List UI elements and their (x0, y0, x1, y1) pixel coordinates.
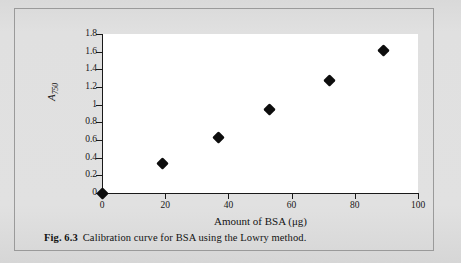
y-axis-title-base: A (45, 94, 57, 101)
y-tick-label: 0.8 (57, 117, 97, 127)
figure-number: Fig. 6.3 (44, 232, 78, 243)
y-tick-label: 0.4 (57, 153, 97, 163)
x-tick-label: 20 (145, 201, 185, 211)
x-tick-label: 60 (272, 201, 312, 211)
figure-caption-text: Calibration curve for BSA using the Lowr… (83, 232, 307, 243)
y-tick-label: 1.2 (57, 82, 97, 92)
x-tick-label: 0 (82, 201, 122, 211)
x-tick-label: 40 (208, 201, 248, 211)
x-tick (228, 194, 229, 199)
y-tick-label: 1.6 (57, 47, 97, 57)
x-tick-label: 80 (335, 201, 375, 211)
y-axis-line (102, 34, 103, 194)
figure-caption: Fig. 6.3Calibration curve for BSA using … (44, 232, 444, 243)
y-tick-label: 0.6 (57, 135, 97, 145)
figure-frame: 00.20.40.60.811.21.41.61.8 020406080100 … (14, 8, 434, 251)
x-tick (165, 194, 166, 199)
figure-page: 00.20.40.60.811.21.41.61.8 020406080100 … (0, 0, 461, 263)
y-tick-label: 1.4 (57, 64, 97, 74)
x-tick (292, 194, 293, 199)
scatter-chart: 00.20.40.60.811.21.41.61.8 020406080100 … (43, 23, 438, 218)
x-axis-title: Amount of BSA (μg) (102, 215, 419, 227)
y-tick-label: 1.8 (57, 29, 97, 39)
x-tick (355, 194, 356, 199)
y-axis-title-subscript: 750 (51, 83, 60, 94)
x-tick (418, 194, 419, 199)
y-tick-label: 0 (57, 188, 97, 198)
y-axis-title: A750 (45, 83, 60, 101)
y-tick-label: 1 (57, 100, 97, 110)
x-tick-label: 100 (398, 201, 438, 211)
x-axis-line (102, 193, 419, 194)
y-tick-label: 0.2 (57, 170, 97, 180)
plot-area (102, 34, 418, 193)
